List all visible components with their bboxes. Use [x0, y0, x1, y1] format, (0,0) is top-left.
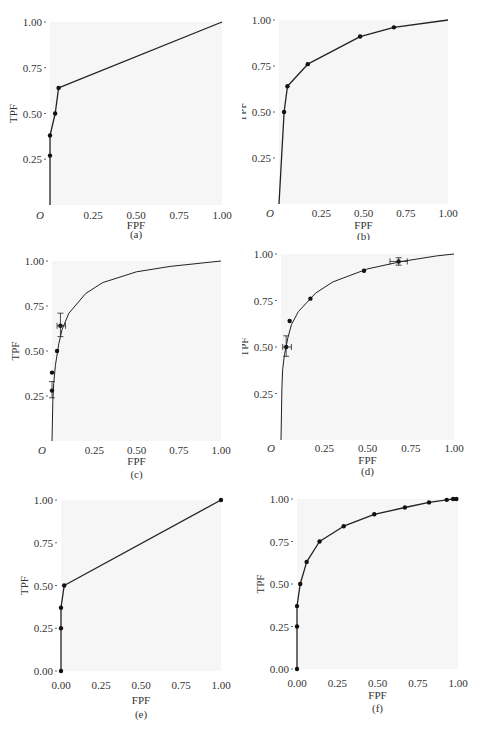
data-point: [362, 269, 366, 273]
panel-caption: (a): [130, 228, 143, 240]
x-tick-label: 1.00: [211, 444, 231, 456]
y-tick-label: 1.00: [254, 248, 274, 260]
y-tick-label: 0.50: [252, 106, 272, 118]
y-tick-label: 0.75: [254, 295, 274, 307]
plot-area: [279, 20, 448, 204]
x-axis-label: FPF: [132, 694, 150, 706]
y-tick-label: 0.25: [254, 388, 274, 400]
y-axis-label: TPF: [254, 575, 266, 594]
panel-f: 0.000.250.500.751.000.000.250.500.751.00…: [242, 480, 484, 734]
data-point: [295, 624, 299, 628]
y-tick-label: 0.00: [270, 663, 290, 675]
x-tick-label: 0.50: [358, 442, 378, 454]
y-tick-label: 0.50: [34, 580, 54, 592]
panel-caption: (d): [361, 465, 374, 478]
panel-a: 0.250.500.751.000.250.500.751.00OFPFTPF(…: [0, 0, 242, 240]
x-tick-label: 0.25: [312, 207, 332, 219]
data-point: [48, 153, 52, 157]
y-tick-label: 0.75: [25, 300, 45, 312]
x-axis-label: FPF: [127, 455, 145, 467]
data-point: [317, 539, 321, 543]
y-tick-label: 1.00: [252, 14, 272, 26]
data-point: [445, 498, 449, 502]
y-tick-label: 1.00: [25, 255, 45, 267]
panel-caption: (b): [357, 230, 370, 240]
data-point: [48, 133, 52, 137]
origin-label: O: [38, 444, 46, 456]
data-point: [219, 498, 223, 502]
data-point: [53, 111, 57, 115]
y-tick-label: 0.25: [25, 390, 45, 402]
data-point: [287, 319, 291, 323]
x-tick-label: 0.25: [83, 209, 103, 221]
x-tick-label: 1.00: [211, 679, 231, 691]
panel-caption: (c): [130, 468, 143, 480]
x-tick-label: 0.75: [396, 207, 416, 219]
x-tick-label: 0.75: [169, 209, 189, 221]
data-point: [403, 505, 407, 509]
data-point: [50, 370, 54, 374]
y-tick-label: 1.00: [270, 493, 290, 505]
data-point: [295, 604, 299, 608]
data-point: [308, 296, 312, 300]
origin-label: O: [266, 207, 274, 219]
x-tick-label: 0.25: [91, 679, 111, 691]
panel-caption: (f): [372, 702, 383, 715]
y-tick-label: 0.50: [25, 345, 45, 357]
y-tick-label: 1.00: [23, 16, 43, 28]
y-tick-label: 0.50: [254, 341, 274, 353]
x-tick-label: 0.75: [171, 679, 191, 691]
y-axis-label: TPF: [242, 338, 250, 357]
data-point: [306, 62, 310, 66]
data-point: [59, 669, 63, 673]
plot-area: [50, 22, 222, 205]
plot-area: [297, 499, 458, 669]
data-point: [285, 84, 289, 88]
x-tick-label: 1.00: [448, 677, 468, 689]
y-tick-label: 0.25: [34, 622, 54, 634]
x-tick-label: 0.50: [368, 677, 388, 689]
x-axis-label: FPF: [368, 689, 386, 701]
y-tick-label: 0.75: [34, 537, 54, 549]
data-point: [454, 497, 458, 501]
data-point: [295, 667, 299, 671]
plot-area: [281, 254, 454, 440]
y-tick-label: 0.50: [270, 578, 290, 590]
y-tick-label: 1.00: [34, 494, 54, 506]
x-tick-label: 0.50: [131, 679, 151, 691]
data-point: [59, 606, 63, 610]
y-tick-label: 0.25: [252, 152, 272, 164]
x-tick-label: 0.25: [328, 677, 348, 689]
data-point: [62, 583, 66, 587]
data-point: [392, 25, 396, 29]
x-tick-label: 0.00: [51, 679, 71, 691]
y-axis-label: TPF: [18, 576, 30, 595]
data-point: [282, 110, 286, 114]
x-tick-label: 0.50: [354, 207, 374, 219]
x-tick-label: 0.75: [169, 444, 189, 456]
origin-label: O: [36, 209, 44, 221]
plot-area: [61, 500, 221, 671]
panel-d: 0.250.500.751.000.250.500.751.00OFPFTPF(…: [242, 240, 484, 480]
y-tick-label: 0.75: [23, 62, 43, 74]
y-axis-label: TPF: [9, 342, 21, 361]
data-point: [56, 86, 60, 90]
data-point: [341, 524, 345, 528]
y-tick-label: 0.75: [252, 60, 272, 72]
y-tick-label: 0.50: [23, 108, 43, 120]
x-tick-label: 1.00: [212, 209, 232, 221]
panel-e: 0.000.250.500.751.000.000.250.500.751.00…: [0, 480, 242, 734]
y-tick-label: 0.75: [270, 536, 290, 548]
x-tick-label: 0.75: [401, 442, 421, 454]
origin-label: O: [267, 442, 275, 454]
panel-b: 0.250.500.751.000.250.500.751.00OFPFTPF(…: [242, 0, 484, 240]
data-point: [427, 500, 431, 504]
x-tick-label: 1.00: [444, 442, 464, 454]
plot-area: [52, 261, 221, 441]
x-tick-label: 0.75: [408, 677, 428, 689]
panel-caption: (e): [135, 708, 148, 721]
data-point: [59, 626, 63, 630]
x-tick-label: 0.25: [315, 442, 335, 454]
x-tick-label: 0.00: [287, 677, 307, 689]
x-tick-label: 1.00: [438, 207, 458, 219]
